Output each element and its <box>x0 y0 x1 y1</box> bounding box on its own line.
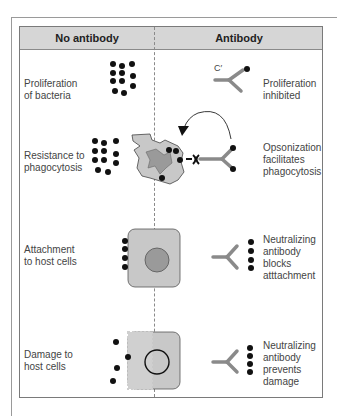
nucleus-icon <box>145 248 169 272</box>
bacteria-cluster-icon <box>92 138 119 175</box>
neutralized-toxin-icon <box>247 345 253 375</box>
antibody-icon <box>200 149 232 168</box>
arrowhead-icon <box>178 126 189 136</box>
illustrations <box>0 0 337 416</box>
blocked-bacteria-icon <box>248 239 254 271</box>
bacteria-cluster-icon <box>110 61 136 96</box>
damaged-membrane-icon <box>128 332 152 389</box>
attached-bacteria-icon <box>122 238 128 270</box>
antibody-icon <box>213 246 237 268</box>
curved-arrow-icon <box>184 111 231 139</box>
bound-bacteria-icon <box>230 145 236 172</box>
fc-receptor-icon <box>186 155 199 164</box>
bacterium-icon <box>244 66 250 72</box>
antibody-icon <box>215 70 243 91</box>
antibody-icon <box>213 351 237 372</box>
